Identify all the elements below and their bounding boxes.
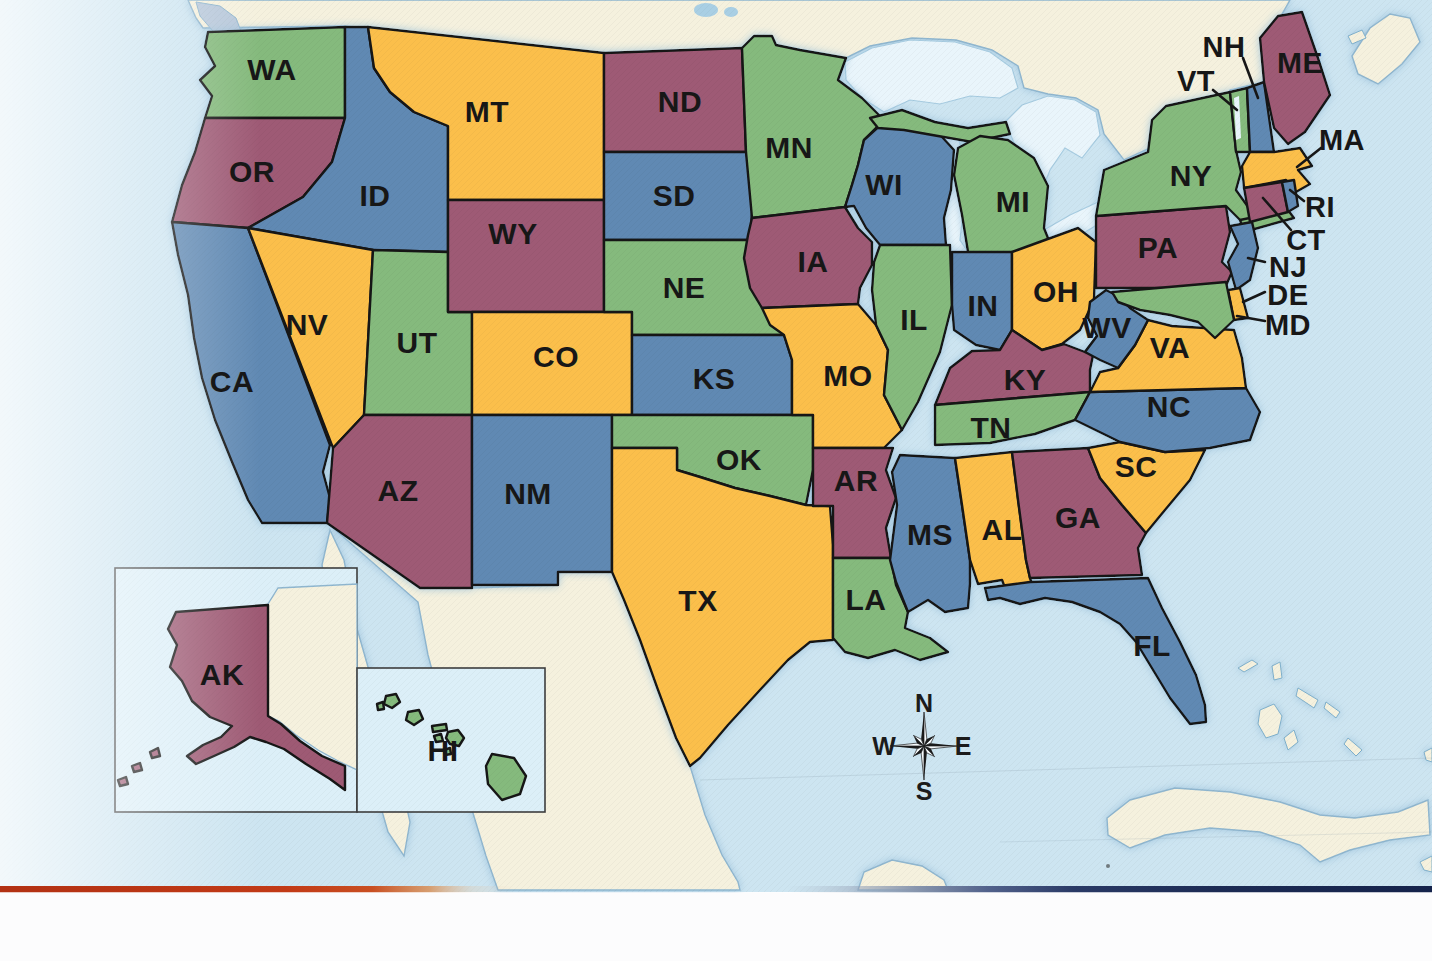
state-label-ut: UT (397, 326, 438, 359)
state-label-ny: NY (1170, 159, 1213, 192)
state-label-az: AZ (378, 474, 419, 507)
state-label-fl: FL (1133, 629, 1171, 662)
compass-label-north: N (915, 689, 933, 717)
state-label-wv: WV (1082, 311, 1131, 344)
state-label-ct: CT (1286, 224, 1326, 256)
state-label-ri: RI (1305, 191, 1335, 223)
state-label-hi: HI (428, 734, 459, 767)
state-label-nh: NH (1203, 31, 1246, 63)
state-label-sd: SD (653, 179, 696, 212)
state-label-nm: NM (504, 477, 552, 510)
state-label-ne: NE (663, 271, 706, 304)
state-label-vt: VT (1177, 65, 1215, 97)
state-label-mn: MN (765, 131, 813, 164)
state-label-il: IL (900, 303, 928, 336)
speck-artifact (1106, 864, 1110, 868)
state-label-ky: KY (1004, 363, 1047, 396)
state-label-ar: AR (834, 464, 878, 497)
state-label-ma: MA (1319, 124, 1365, 156)
state-label-ca: CA (210, 365, 254, 398)
compass-label-west: W (872, 732, 896, 760)
state-label-va: VA (1150, 331, 1190, 364)
state-label-ms: MS (907, 518, 953, 551)
state-label-tn: TN (971, 411, 1012, 444)
state-label-oh: OH (1033, 275, 1079, 308)
state-label-al: AL (982, 513, 1023, 546)
state-label-wy: WY (488, 217, 537, 250)
bottom-gradient-bar (0, 886, 1432, 893)
state-label-nd: ND (658, 85, 702, 118)
state-label-ak: AK (200, 658, 244, 691)
state-label-wi: WI (865, 168, 903, 201)
state-label-de: DE (1267, 279, 1308, 311)
state-label-md: MD (1265, 309, 1311, 341)
bottom-white-strip (0, 893, 1432, 961)
state-label-ga: GA (1055, 501, 1101, 534)
compass-label-south: S (916, 777, 933, 805)
state-label-mi: MI (996, 185, 1030, 218)
state-label-ks: KS (693, 362, 736, 395)
state-label-mt: MT (465, 95, 509, 128)
state-label-tx: TX (678, 584, 717, 617)
left-edge-fade (0, 0, 260, 892)
compass-label-east: E (955, 732, 972, 760)
state-label-wa: WA (247, 53, 296, 86)
state-label-co: CO (533, 340, 579, 373)
state-label-or: OR (229, 155, 275, 188)
state-label-pa: PA (1138, 231, 1178, 264)
state-label-mo: MO (823, 359, 872, 392)
state-label-ok: OK (716, 443, 762, 476)
state-label-id: ID (360, 179, 391, 212)
state-label-nc: NC (1147, 390, 1191, 423)
state-label-sc: SC (1115, 450, 1158, 483)
state-label-in: IN (968, 289, 999, 322)
state-label-me: ME (1277, 46, 1323, 79)
state-label-ia: IA (798, 245, 829, 278)
state-label-la: LA (846, 583, 887, 616)
us-states-postcard-map: WAORCAIDNVUTAZMTWYCONMNDSDNEKSOKTXMNIAMO… (0, 0, 1432, 961)
state-label-nv: NV (286, 308, 329, 341)
